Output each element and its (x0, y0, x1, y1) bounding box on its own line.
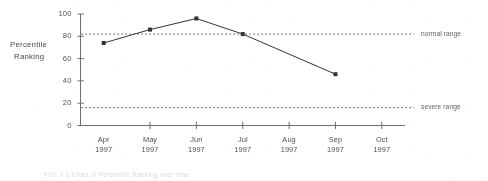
y-axis-title-line-2: Ranking (14, 52, 44, 61)
x-tick-year: 1997 (130, 145, 170, 155)
y-tick-label: 0 (50, 121, 72, 130)
x-tick-month: Apr (84, 135, 124, 145)
x-tick-label: Oct1997 (362, 135, 402, 154)
x-tick-year: 1997 (176, 145, 216, 155)
x-tick-month: Aug (269, 135, 309, 145)
x-tick-year: 1997 (269, 145, 309, 155)
reference-lines (82, 34, 415, 108)
y-tick-label: 40 (50, 76, 72, 85)
data-point (333, 72, 337, 76)
x-tick-year: 1997 (84, 145, 124, 155)
data-point (102, 41, 106, 45)
x-tick-month: Jul (223, 135, 263, 145)
x-tick-year: 1997 (223, 145, 263, 155)
data-point-markers (102, 16, 338, 76)
y-tick-label: 80 (50, 31, 72, 40)
data-point (194, 16, 198, 20)
x-tick-month: Sep (315, 135, 355, 145)
x-tick-label: Apr1997 (84, 135, 124, 154)
y-tick-label: 60 (50, 54, 72, 63)
x-tick-label: Aug1997 (269, 135, 309, 154)
x-tick-month: Oct (362, 135, 402, 145)
reference-line-label: severe range (421, 103, 461, 110)
x-tick-year: 1997 (362, 145, 402, 155)
y-axis-title-line-1: Percentile (10, 40, 47, 49)
data-point (241, 32, 245, 36)
x-tick-month: May (130, 135, 170, 145)
reference-line-label: normal range (421, 30, 461, 37)
data-point (148, 28, 152, 32)
data-line (104, 19, 336, 75)
y-tick-label: 20 (50, 98, 72, 107)
figure-caption: FIG. 7.1 Chart of Percentile Ranking ove… (44, 171, 189, 178)
x-tick-month: Jun (176, 135, 216, 145)
figure-page: Percentile Ranking 020406080100 Apr1997M… (0, 0, 488, 181)
x-tick-label: Jul1997 (223, 135, 263, 154)
x-tick-year: 1997 (315, 145, 355, 155)
y-tick-label: 100 (50, 9, 72, 18)
x-tick-label: May1997 (130, 135, 170, 154)
x-tick-label: Sep1997 (315, 135, 355, 154)
line-chart: Percentile Ranking 020406080100 Apr1997M… (0, 0, 488, 181)
x-tick-label: Jun1997 (176, 135, 216, 154)
